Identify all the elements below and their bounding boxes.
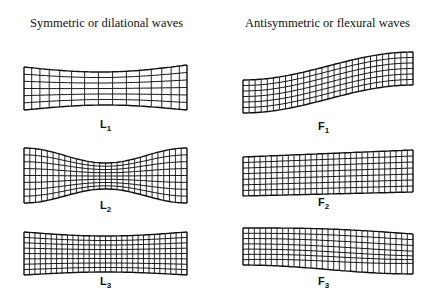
grid-F3 [243,228,413,274]
grid-F2 [243,150,413,196]
mode-label-F1: F1 [318,120,329,135]
grid-L3 [24,232,187,275]
grid-L2 [24,148,187,203]
grid-F1 [243,52,413,113]
mode-label-F3: F3 [318,275,329,290]
mode-label-F2: F2 [318,196,329,211]
mode-label-L3: L3 [100,275,111,290]
wave-mode-diagrams [0,0,431,294]
mode-label-L1: L1 [100,118,111,133]
mode-label-L2: L2 [100,199,111,214]
grid-L1 [24,65,187,110]
